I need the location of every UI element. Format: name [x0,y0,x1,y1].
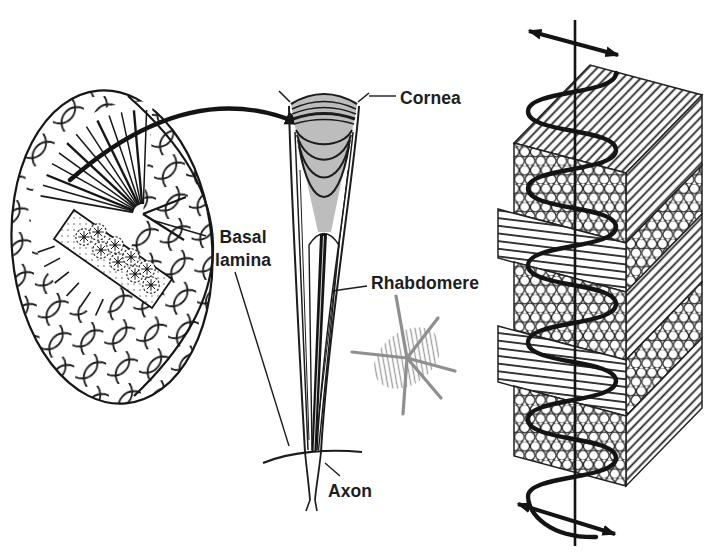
label-axon: Axon [328,480,372,503]
polarization-arrow-top [529,31,618,55]
rhabdomere-cross-section [352,296,455,414]
label-rhabdomere: Rhabdomere [371,272,479,295]
label-basal-lamina: Basal lamina [204,226,282,272]
ommatidium-section [263,91,369,511]
label-cornea: Cornea [400,87,461,110]
diagram-page: Cornea Basal lamina Rhabdomere Axon [0,0,706,557]
axon-leader-line [325,463,340,476]
compound-eye-cutaway [0,82,225,412]
basal-lamina-line [263,451,362,463]
axon-lines [305,452,321,511]
polarization-arrow-bottom [518,504,615,534]
figure-canvas [0,0,706,557]
basal-lamina-leader-line-ommatidium [235,272,289,446]
